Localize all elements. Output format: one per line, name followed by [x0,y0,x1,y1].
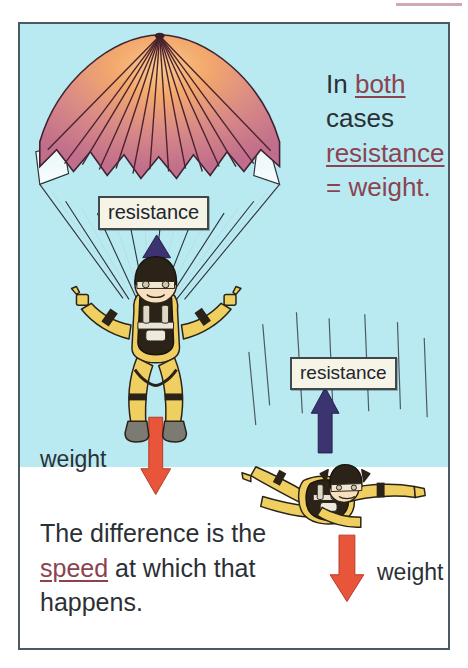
statement-word-cases: cases [326,103,394,133]
bottom-statement-highlight: speed [40,554,108,582]
weight-arrow-freefall [330,535,364,601]
bottom-statement: The difference is the speed at which tha… [40,516,330,620]
statement-word-both: both [355,69,406,99]
resistance-arrow-freefall [311,388,339,453]
statement-word-equals-weight: = weight. [326,172,431,202]
weight-label-freefall: weight [377,561,443,584]
resistance-label-freefall: resistance [290,357,397,390]
bottom-statement-part1: The difference is the [40,519,266,547]
weight-label-parachute: weight [40,448,106,471]
statement-word-in: In [326,69,355,99]
decorative-top-rule [396,3,462,6]
statement-word-resistance: resistance [326,138,445,168]
statement-both-cases: In both cases resistance = weight. [326,67,450,204]
figure-frame: resistance resistance weight weight In b… [18,22,450,650]
resistance-label-parachute: resistance [98,196,209,230]
